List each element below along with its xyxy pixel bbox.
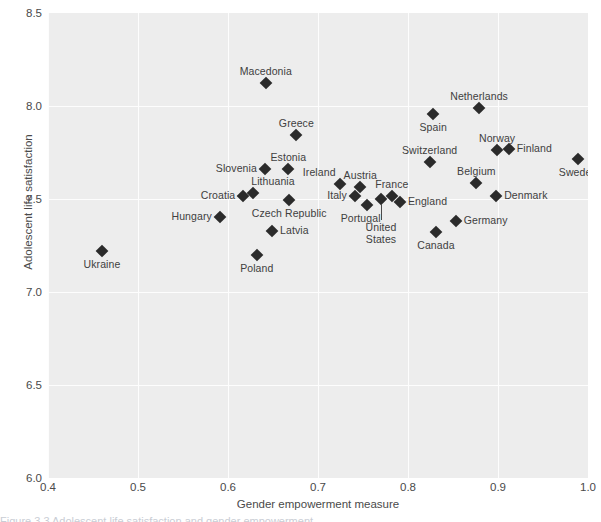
figure-caption-sliver: Figure 3.3 Adolescent life satisfaction … (0, 515, 601, 522)
scatter-plot-figure: Adolescent life satisfaction 6.06.57.07.… (0, 0, 601, 522)
data-point-label: Belgium (457, 165, 496, 177)
data-point (490, 190, 503, 203)
x-tick-label: 0.6 (220, 481, 236, 493)
data-point-label: Greece (279, 117, 314, 129)
data-point (96, 245, 109, 258)
gridline-horizontal (48, 385, 588, 386)
gridline-vertical (228, 13, 229, 478)
data-point-label: Ukraine (84, 258, 121, 270)
y-tick-label: 7.0 (26, 286, 42, 298)
data-point (423, 156, 436, 169)
data-point-label: Macedonia (240, 65, 292, 77)
data-point-label: Croatia (201, 189, 236, 201)
data-point (283, 194, 296, 207)
label-leader-line (381, 204, 382, 220)
data-point-label: Canada (417, 239, 454, 251)
x-tick-label: 1.0 (580, 481, 596, 493)
y-tick-label: 8.0 (26, 100, 42, 112)
data-point-label: Netherlands (450, 90, 508, 102)
gridline-vertical (138, 13, 139, 478)
data-point-label: Switzerland (402, 144, 457, 156)
data-point-label: Norway (479, 132, 515, 144)
data-point (247, 187, 260, 200)
data-point-label: Estonia (270, 151, 306, 163)
data-point (449, 215, 462, 228)
gridline-vertical (498, 13, 499, 478)
data-point (250, 249, 263, 262)
plot-area: UkraineHungaryCroatiaLithuaniaSloveniaPo… (48, 13, 588, 478)
gridline-vertical (48, 13, 49, 478)
y-tick-label: 7.5 (26, 193, 42, 205)
x-tick-label: 0.4 (40, 481, 56, 493)
data-point-label: Italy (327, 189, 347, 201)
data-point-label: England (408, 195, 447, 207)
data-point (427, 108, 440, 121)
data-point (491, 144, 504, 157)
x-tick-label: 0.9 (490, 481, 506, 493)
data-point-label: Ireland (303, 166, 336, 178)
data-point (282, 163, 295, 176)
data-point (572, 153, 585, 166)
data-point-label: Hungary (172, 210, 212, 222)
data-point (259, 163, 272, 176)
data-point-label: UnitedStates (366, 221, 397, 245)
data-point (259, 77, 272, 90)
data-point (214, 211, 227, 224)
gridline-horizontal (48, 106, 588, 107)
x-tick-label: 0.5 (130, 481, 146, 493)
data-point-label: Austria (344, 169, 377, 181)
data-point (430, 226, 443, 239)
y-tick-label: 6.5 (26, 379, 42, 391)
data-point (266, 225, 279, 238)
x-axis-title: Gender empowerment measure (48, 498, 588, 510)
gridline-horizontal (48, 292, 588, 293)
data-point-label: Czech Republic (252, 207, 327, 219)
data-point-label: Latvia (280, 224, 309, 236)
data-point-label: Denmark (504, 189, 547, 201)
data-point-label: Slovenia (216, 162, 257, 174)
x-tick-label: 0.8 (400, 481, 416, 493)
gridline-vertical (318, 13, 319, 478)
data-point (360, 199, 373, 212)
data-point-label: Finland (517, 142, 552, 154)
data-point (470, 177, 483, 190)
data-point (473, 102, 486, 115)
data-point (290, 129, 303, 142)
gridline-vertical (408, 13, 409, 478)
data-point-label: Sweden (559, 166, 588, 178)
data-point-label: France (375, 178, 408, 190)
data-point-label: Lithuania (251, 175, 295, 187)
data-point-label: Spain (420, 121, 447, 133)
x-tick-label: 0.7 (310, 481, 326, 493)
data-point (502, 143, 515, 156)
data-point-label: Poland (240, 262, 273, 274)
y-tick-label: 8.5 (26, 7, 42, 19)
data-point-label: Germany (464, 214, 508, 226)
